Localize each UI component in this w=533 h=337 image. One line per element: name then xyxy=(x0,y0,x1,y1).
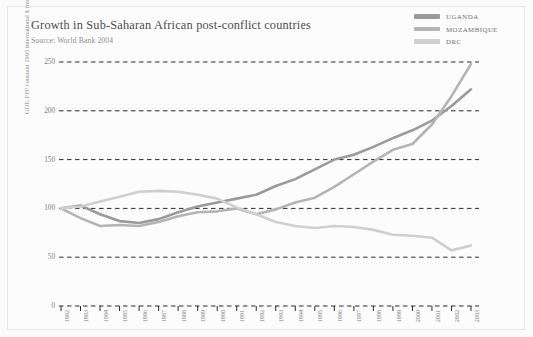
legend-item-mozambique: MOZAMBIQUE xyxy=(414,26,498,33)
legend-label: MOZAMBIQUE xyxy=(446,26,498,33)
x-axis-tick-label: 1983 xyxy=(83,310,89,322)
x-axis-tick-label: 1988 xyxy=(181,310,187,322)
x-axis-tick-label: 1986 xyxy=(142,310,148,322)
legend-label: UGANDA xyxy=(446,13,479,20)
x-axis-tick-label: 1997 xyxy=(356,310,362,322)
x-axis-tick-label: 1996 xyxy=(337,310,343,322)
page-title: Growth in Sub-Saharan African post-confl… xyxy=(31,18,311,33)
legend-item-uganda: UGANDA xyxy=(414,13,498,20)
y-axis-tick-label: 150 xyxy=(44,156,55,164)
x-axis-tick-label: 1984 xyxy=(103,310,109,322)
y-axis-tick-label: 0 xyxy=(51,302,55,310)
x-axis-tick-label: 1998 xyxy=(376,310,382,322)
series-line-uganda xyxy=(61,89,471,223)
x-axis-tick-label: 1987 xyxy=(161,310,167,322)
chart-legend: UGANDAMOZAMBIQUEDRC xyxy=(414,13,498,45)
y-axis-label: GDP, PPP constant 1995 international $ (… xyxy=(23,0,30,114)
x-axis-tick-label: 1994 xyxy=(298,310,304,322)
legend-item-drc: DRC xyxy=(414,38,498,45)
x-axis-tick-label: 1982 xyxy=(64,310,70,322)
x-axis-tick-label: 1991 xyxy=(239,310,245,322)
x-axis-tick-label: 2002 xyxy=(454,310,460,322)
y-axis-tick-label: 250 xyxy=(44,58,55,66)
legend-swatch-icon xyxy=(414,39,440,43)
x-axis-tick-label: 2003 xyxy=(474,310,480,322)
chart-canvas xyxy=(59,62,479,306)
plot-area: GDP, PPP constant 1995 international $ (… xyxy=(59,62,479,306)
x-axis-tick-label: 1989 xyxy=(200,310,206,322)
legend-swatch-icon xyxy=(414,14,440,18)
x-axis-tick-label: 1995 xyxy=(317,310,323,322)
y-axis-tick-label: 200 xyxy=(44,107,55,115)
y-axis-tick-label: 100 xyxy=(44,204,55,212)
series-line-mozambique xyxy=(61,64,471,226)
source-caption: Source: World Bank 2004 xyxy=(31,36,113,45)
x-axis-tick-label: 1992 xyxy=(259,310,265,322)
x-axis-tick-label: 2001 xyxy=(435,310,441,322)
x-axis-tick-label: 1993 xyxy=(278,310,284,322)
x-axis-tick-label: 2000 xyxy=(415,310,421,322)
x-axis-tick-label: 1999 xyxy=(396,310,402,322)
x-axis-tick-label: 1985 xyxy=(122,310,128,322)
x-axis-tick-label: 1990 xyxy=(220,310,226,322)
legend-label: DRC xyxy=(446,38,462,45)
chart-figure: Growth in Sub-Saharan African post-confl… xyxy=(0,0,533,337)
y-axis-tick-label: 50 xyxy=(48,253,55,261)
legend-swatch-icon xyxy=(414,27,440,31)
